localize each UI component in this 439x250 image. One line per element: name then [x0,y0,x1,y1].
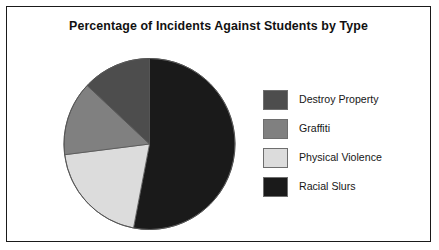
legend-item-physical-violence[interactable]: Physical Violence [263,143,428,172]
legend-swatch-destroy-property [263,90,288,110]
pie-chart [58,47,241,231]
chart-title: Percentage of Incidents Against Students… [7,19,430,33]
legend-label-destroy-property: Destroy Property [299,94,378,105]
legend-label-physical-violence: Physical Violence [299,152,382,163]
chart-frame: Percentage of Incidents Against Students… [6,6,431,242]
legend-swatch-graffiti [263,119,288,139]
pie-chart-svg [58,47,241,231]
legend-swatch-physical-violence [263,148,288,168]
pie-slice-group [64,59,235,230]
legend-label-racial-slurs: Racial Slurs [299,181,356,192]
legend-item-graffiti[interactable]: Graffiti [263,114,428,143]
legend-swatch-racial-slurs [263,177,288,197]
legend-item-destroy-property[interactable]: Destroy Property [263,85,428,114]
legend-item-racial-slurs[interactable]: Racial Slurs [263,172,428,201]
legend: Destroy Property Graffiti Physical Viole… [263,85,428,201]
legend-label-graffiti: Graffiti [299,123,330,134]
